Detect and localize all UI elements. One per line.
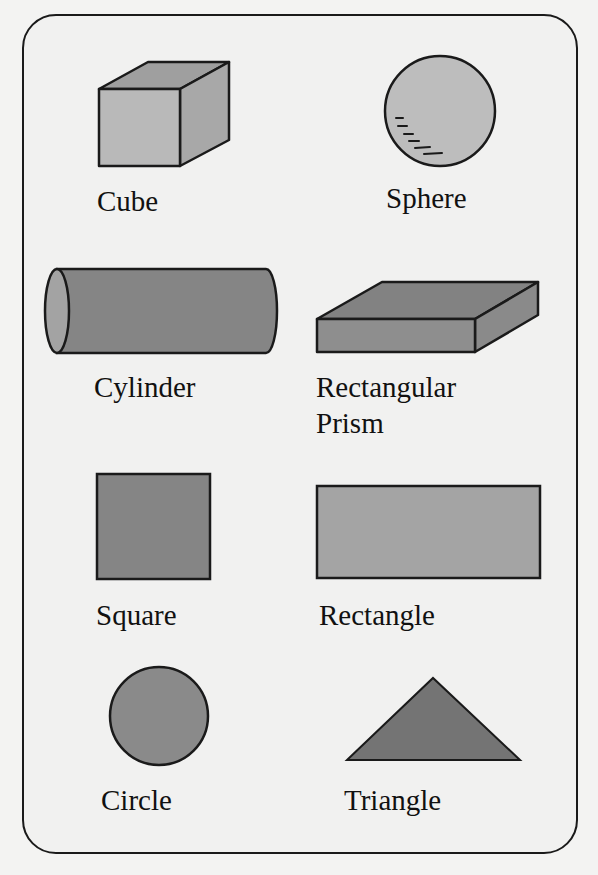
sphere-icon xyxy=(385,56,495,166)
label-triangle: Triangle xyxy=(344,782,441,818)
label-rectangle: Rectangle xyxy=(319,597,435,633)
triangle-icon xyxy=(347,678,520,760)
label-cube: Cube xyxy=(97,183,158,219)
label-rectangular-prism: Rectangular Prism xyxy=(316,369,456,442)
rectangle-icon xyxy=(317,486,540,578)
label-circle: Circle xyxy=(101,782,172,818)
square-icon xyxy=(97,474,210,579)
label-cylinder: Cylinder xyxy=(94,369,196,405)
rectangular-prism-icon xyxy=(317,282,538,352)
circle-icon xyxy=(110,667,208,765)
label-square: Square xyxy=(96,597,177,633)
shapes-canvas xyxy=(0,0,598,875)
cube-icon xyxy=(99,62,229,166)
cylinder-icon xyxy=(45,269,277,353)
label-sphere: Sphere xyxy=(386,180,467,216)
